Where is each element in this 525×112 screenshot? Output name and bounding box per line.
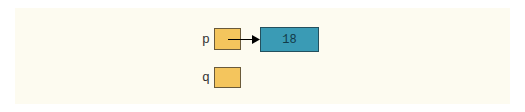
pointer-box-p bbox=[214, 28, 241, 50]
variable-label-q: q bbox=[202, 71, 210, 85]
variable-label-p: p bbox=[202, 33, 210, 47]
object-box: 18 bbox=[260, 27, 319, 52]
diagram-panel bbox=[15, 8, 510, 104]
pointer-box-q bbox=[214, 67, 241, 88]
object-value: 18 bbox=[282, 33, 296, 47]
